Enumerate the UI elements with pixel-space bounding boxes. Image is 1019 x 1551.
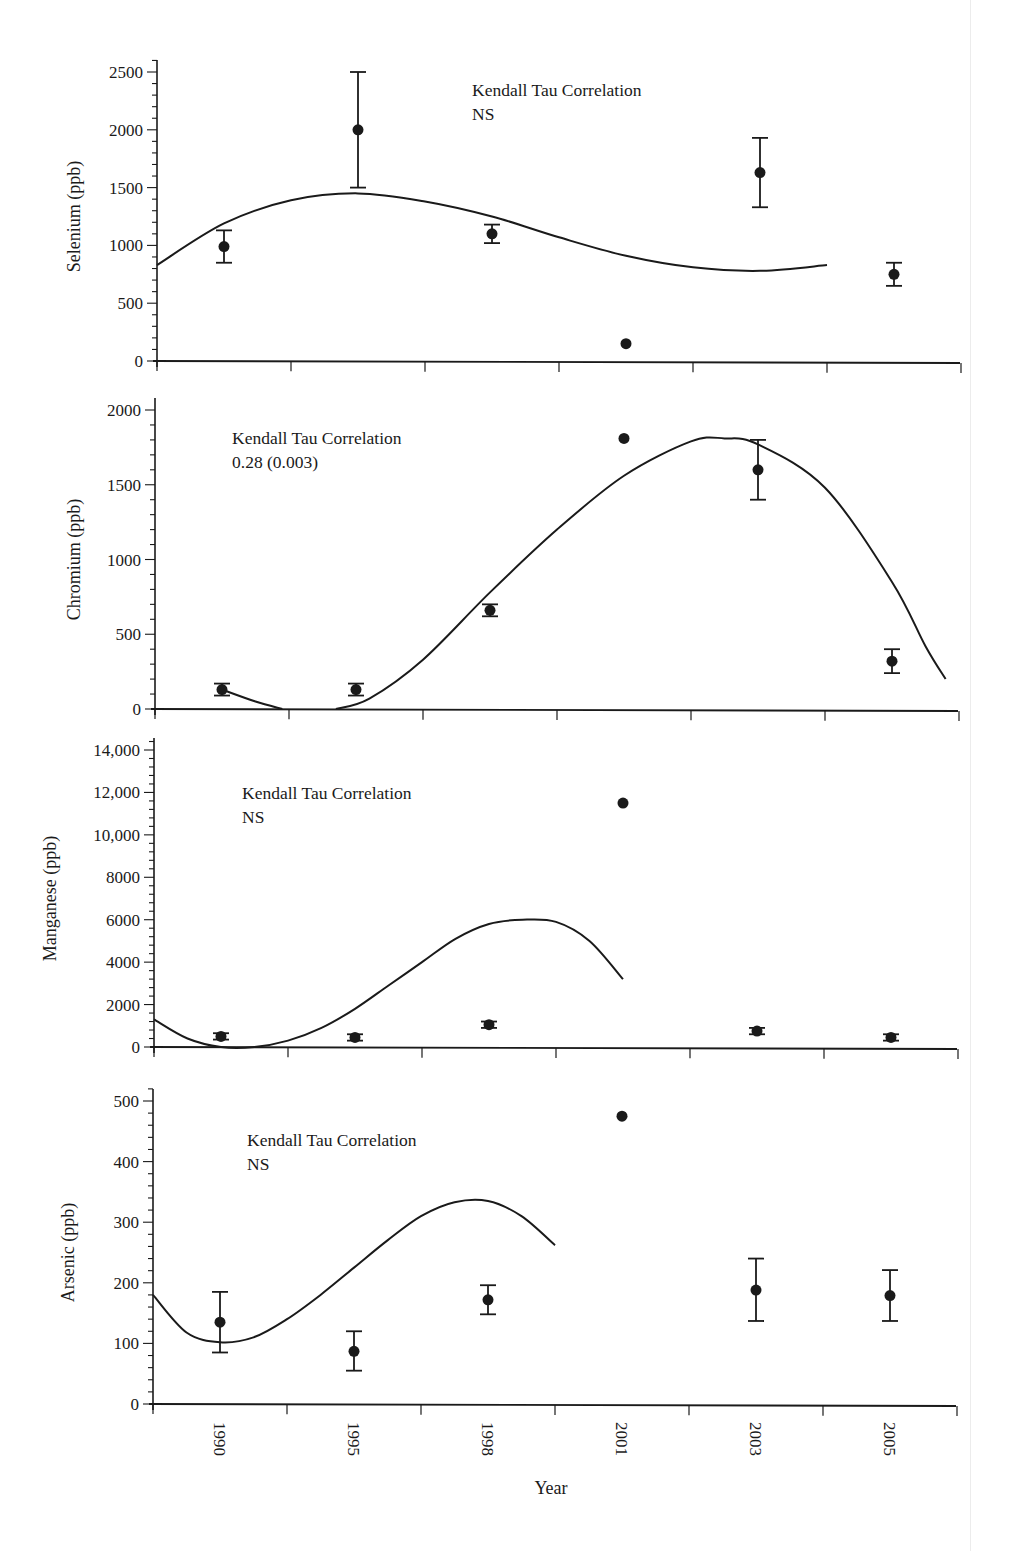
x-tick-label: 2005 <box>880 1422 899 1456</box>
data-point <box>755 167 766 178</box>
data-point <box>215 1317 226 1328</box>
y-tick-label: 0 <box>133 700 142 719</box>
y-tick-label: 0 <box>132 1038 141 1057</box>
y-axis-label: Manganese (ppb) <box>40 836 61 961</box>
y-tick-label: 400 <box>114 1153 140 1172</box>
page-edge-line <box>970 0 971 1551</box>
y-tick-label: 1000 <box>109 236 143 255</box>
y-tick-label: 300 <box>114 1213 140 1232</box>
data-point <box>618 798 629 809</box>
trend-line <box>336 437 946 709</box>
data-point <box>487 228 498 239</box>
data-point <box>349 1346 360 1357</box>
data-point <box>889 269 900 280</box>
y-tick-label: 1500 <box>109 179 143 198</box>
x-axis <box>150 1047 957 1049</box>
x-tick-label: 1995 <box>344 1422 363 1456</box>
y-tick-label: 500 <box>116 625 142 644</box>
data-point <box>485 605 496 616</box>
y-tick-label: 14,000 <box>93 741 140 760</box>
trend-line <box>222 690 282 709</box>
y-tick-label: 200 <box>114 1274 140 1293</box>
data-point <box>350 1032 361 1043</box>
x-tick-label: 2001 <box>612 1422 631 1456</box>
data-point <box>351 684 362 695</box>
data-point <box>753 464 764 475</box>
data-point <box>886 1032 897 1043</box>
y-tick-label: 12,000 <box>93 783 140 802</box>
data-point <box>353 124 364 135</box>
x-tick-label: 1990 <box>210 1422 229 1456</box>
annotation-title: Kendall Tau Correlation <box>232 428 402 448</box>
annotation-value: 0.28 (0.003) <box>232 452 318 472</box>
y-tick-label: 0 <box>131 1395 140 1414</box>
y-tick-label: 500 <box>118 294 144 313</box>
x-axis-label: Year <box>534 1478 567 1498</box>
y-tick-label: 2000 <box>109 121 143 140</box>
y-axis-label: Selenium (ppb) <box>64 161 85 272</box>
data-point <box>885 1290 896 1301</box>
x-axis <box>153 361 960 363</box>
data-point <box>483 1294 494 1305</box>
trend-line <box>154 919 623 1048</box>
y-axis-label: Chromium (ppb) <box>64 499 85 621</box>
y-tick-label: 2000 <box>107 401 141 420</box>
annotation-title: Kendall Tau Correlation <box>472 80 642 100</box>
chart-canvas: 05001000150020002500Selenium (ppb)Kendal… <box>0 0 1019 1551</box>
y-tick-label: 100 <box>114 1334 140 1353</box>
data-point <box>617 1111 628 1122</box>
data-point <box>619 433 630 444</box>
y-tick-label: 4000 <box>106 953 140 972</box>
annotation-title: Kendall Tau Correlation <box>247 1130 417 1150</box>
annotation-value: NS <box>242 807 264 827</box>
y-tick-label: 1000 <box>107 551 141 570</box>
y-tick-label: 10,000 <box>93 826 140 845</box>
y-tick-label: 2000 <box>106 996 140 1015</box>
data-point <box>216 1031 227 1042</box>
data-point <box>217 684 228 695</box>
y-tick-label: 1500 <box>107 476 141 495</box>
data-point <box>751 1285 762 1296</box>
x-tick-label: 1998 <box>478 1422 497 1456</box>
y-tick-label: 500 <box>114 1092 140 1111</box>
y-tick-label: 0 <box>135 352 144 371</box>
data-point <box>219 241 230 252</box>
annotation-value: NS <box>247 1154 269 1174</box>
y-tick-label: 8000 <box>106 868 140 887</box>
data-point <box>752 1026 763 1037</box>
x-axis <box>151 709 958 711</box>
annotation-value: NS <box>472 104 494 124</box>
data-point <box>621 338 632 349</box>
figure: 05001000150020002500Selenium (ppb)Kendal… <box>0 0 1019 1551</box>
data-point <box>887 656 898 667</box>
y-tick-label: 2500 <box>109 63 143 82</box>
y-axis-label: Arsenic (ppb) <box>58 1203 79 1302</box>
x-axis <box>149 1404 956 1406</box>
x-tick-label: 2003 <box>746 1422 765 1456</box>
y-tick-label: 6000 <box>106 911 140 930</box>
data-point <box>484 1019 495 1030</box>
annotation-title: Kendall Tau Correlation <box>242 783 412 803</box>
trend-line <box>153 1200 555 1343</box>
